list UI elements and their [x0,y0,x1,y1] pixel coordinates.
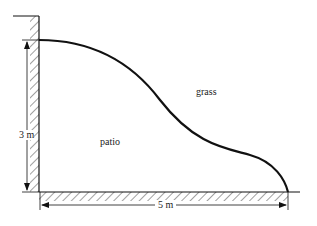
height-label: 3 m [19,130,34,140]
patio-label: patio [100,137,120,147]
wall-hatch [13,16,39,192]
grass-label: grass [196,87,217,97]
boundary-curve [39,40,288,192]
width-label: 5 m [155,200,176,210]
garden-diagram [0,0,317,226]
